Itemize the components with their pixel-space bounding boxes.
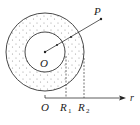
- mid-dot-1: [56, 44, 58, 46]
- r1-subscript: 1: [68, 107, 72, 115]
- shell-diagram: O P O R 1 R 2 r: [0, 0, 140, 125]
- r2-label: R: [77, 101, 85, 113]
- center-dot: [44, 51, 46, 53]
- point-p-label: P: [93, 5, 101, 17]
- point-p-dot: [100, 18, 102, 20]
- r2-subscript: 2: [86, 107, 90, 115]
- center-label: O: [40, 57, 48, 69]
- axis-r-label: r: [130, 92, 134, 103]
- axis-origin-label: O: [41, 101, 49, 113]
- mid-dot-2: [70, 36, 72, 38]
- r1-label: R: [59, 101, 67, 113]
